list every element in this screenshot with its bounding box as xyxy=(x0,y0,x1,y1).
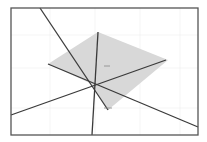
geometry-diagram xyxy=(0,0,207,142)
